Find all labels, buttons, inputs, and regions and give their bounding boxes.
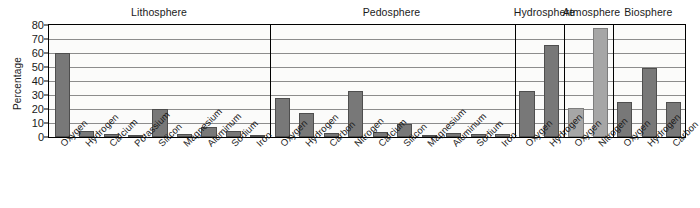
bar-slot [50, 25, 74, 137]
y-tick-label: 20 [32, 104, 44, 115]
y-tick-mark [44, 137, 48, 138]
y-tick-label: 10 [32, 118, 44, 129]
panel-hydrosphere [515, 25, 564, 137]
panel-title-hydrosphere: Hydrosphere [514, 6, 563, 18]
y-tick-mark [44, 67, 48, 68]
y-tick-label: 50 [32, 62, 44, 73]
y-tick-label: 80 [32, 20, 44, 31]
bar-slot [515, 25, 539, 137]
y-axis-title: Percentage [12, 39, 23, 129]
y-tick-mark [44, 95, 48, 96]
panel-title-atmosphere: Atmosphere [563, 6, 612, 18]
y-axis-tick-labels: 80706050403020100 [22, 24, 44, 138]
y-tick-mark [44, 109, 48, 110]
y-tick-label: 40 [32, 76, 44, 87]
y-tick-label: 30 [32, 90, 44, 101]
y-tick-mark [44, 81, 48, 82]
y-tick-label: 70 [32, 34, 44, 45]
y-tick-mark [44, 25, 48, 26]
y-tick-mark [44, 123, 48, 124]
bar-slot [270, 25, 294, 137]
panel-title-lithosphere: Lithosphere [49, 6, 269, 18]
panel-title-pedosphere: Pedosphere [269, 6, 514, 18]
bar-lithosphere-oxygen[interactable] [55, 53, 70, 137]
y-tick-mark [44, 39, 48, 40]
panel-title-biosphere: Biosphere [612, 6, 685, 18]
y-tick-mark [44, 53, 48, 54]
y-tick-label: 60 [32, 48, 44, 59]
